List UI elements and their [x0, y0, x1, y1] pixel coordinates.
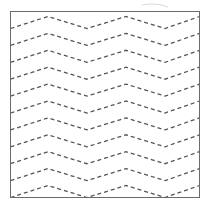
- figure-background: [0, 0, 211, 210]
- figure-root: [0, 0, 211, 210]
- chevron-pattern-canvas: [0, 0, 211, 210]
